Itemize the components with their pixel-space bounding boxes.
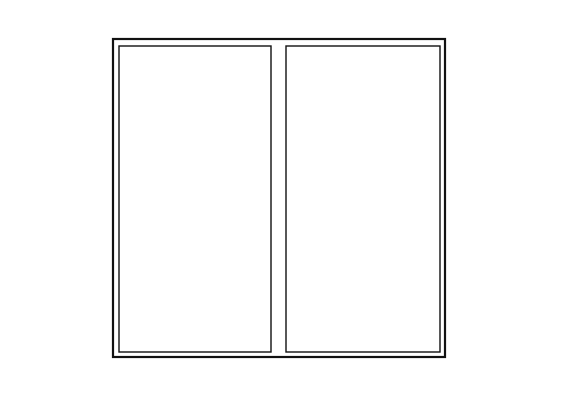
backgammon-board bbox=[0, 0, 573, 404]
outer-table-frame bbox=[119, 46, 271, 352]
home-table-frame bbox=[286, 46, 440, 352]
board-outer-frame bbox=[113, 39, 445, 357]
